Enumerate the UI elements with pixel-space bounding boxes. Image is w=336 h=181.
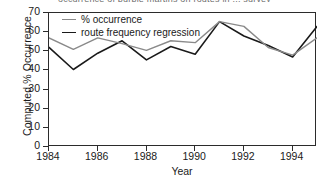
x-tick-label: 1986 — [77, 151, 117, 162]
x-tick-label: 1988 — [126, 151, 166, 162]
x-tick-label: 1994 — [272, 151, 312, 162]
y-tick-label: 30 — [14, 83, 40, 93]
y-tick-label: 40 — [14, 63, 40, 73]
y-tick-label: 10 — [14, 121, 40, 131]
legend-item-route-frequency-regression: route frequency regression — [62, 27, 200, 38]
y-tick-label: 50 — [14, 44, 40, 54]
x-tick-label: 1984 — [28, 151, 68, 162]
x-tick-label: 1990 — [174, 151, 214, 162]
legend-swatch-icon — [62, 32, 76, 33]
legend-item-percent-occurrence: % occurrence — [62, 14, 200, 25]
legend-label: % occurrence — [81, 14, 142, 25]
chart-figure: occurrence of purple martins on routes i… — [0, 0, 336, 181]
x-axis-title: Year — [48, 165, 316, 177]
y-tick-label: 20 — [14, 102, 40, 112]
chart-legend: % occurrence route frequency regression — [62, 14, 200, 40]
legend-swatch-icon — [62, 19, 76, 20]
clipped-caption-text: occurrence of purple martins on routes i… — [58, 0, 318, 2]
x-tick-label: 1992 — [223, 151, 263, 162]
legend-label: route frequency regression — [81, 27, 200, 38]
y-tick-label: 60 — [14, 25, 40, 35]
y-tick-label: 70 — [14, 6, 40, 16]
y-tick-label: 0 — [14, 140, 40, 150]
